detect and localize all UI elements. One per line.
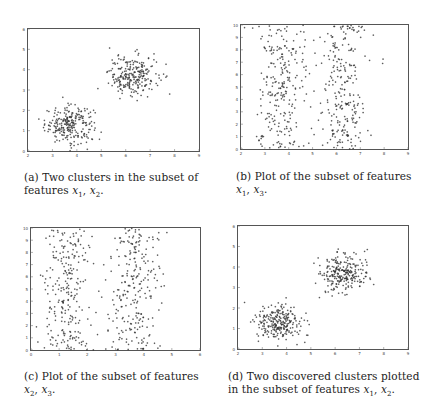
x-tick-label: 2	[237, 351, 240, 356]
y-tick-label: 2	[232, 306, 235, 311]
x-tick-label: 9	[198, 153, 201, 158]
y-tick-label: 2	[235, 122, 238, 127]
x-tick-label: 4	[287, 151, 290, 156]
x-tick-label: 6	[335, 151, 338, 156]
y-tick-label: 7	[25, 262, 28, 267]
x-tick-label: 3	[261, 351, 264, 356]
scatter-svg-b: 23456789012345678910	[241, 25, 408, 149]
y-tick-label: 5	[22, 47, 25, 52]
x-tick-label: 8	[382, 351, 385, 356]
scatter-plot-d: 234567890123456	[237, 225, 409, 350]
x-tick-label: 2	[86, 352, 89, 357]
x-tick-label: 3	[51, 153, 54, 158]
y-tick-label: 1	[25, 335, 28, 340]
scatter-svg-a: 234567890123456	[28, 29, 199, 151]
y-tick-label: 1	[22, 128, 25, 133]
caption-d-line2: in the subset of features x1, x2.	[228, 383, 433, 401]
y-tick-label: 1	[232, 326, 235, 331]
scatter-plot-c: 0123456012345678910	[30, 227, 201, 351]
caption-d-line1: (d) Two discovered clusters plotted	[228, 370, 433, 383]
scatter-svg-d: 234567890123456	[238, 226, 408, 349]
x-tick-label: 4	[285, 351, 288, 356]
caption-b: (b) Plot of the subset of features x1, x…	[236, 170, 431, 201]
y-tick-label: 6	[235, 72, 238, 77]
x-tick-label: 0	[30, 352, 33, 357]
caption-a: (a) Two clusters in the subset of featur…	[24, 171, 214, 202]
scatter-svg-c: 0123456012345678910	[31, 228, 200, 350]
y-tick-label: 5	[25, 287, 28, 292]
y-tick-label: 6	[232, 224, 235, 229]
y-tick-label: 5	[232, 244, 235, 249]
y-tick-label: 10	[23, 226, 29, 231]
scatter-plot-b: 23456789012345678910	[240, 24, 409, 150]
y-tick-label: 9	[235, 35, 238, 40]
y-tick-label: 7	[235, 60, 238, 65]
caption-c-line1: (c) Plot of the subset of features	[24, 370, 219, 383]
x-tick-label: 9	[407, 151, 410, 156]
x-tick-label: 3	[114, 352, 117, 357]
y-tick-label: 9	[25, 238, 28, 243]
y-tick-label: 3	[22, 88, 25, 93]
y-tick-label: 4	[232, 265, 235, 270]
y-tick-label: 1	[235, 134, 238, 139]
x-tick-label: 2	[240, 151, 243, 156]
y-tick-label: 4	[22, 67, 25, 72]
x-tick-label: 5	[311, 151, 314, 156]
y-tick-label: 8	[25, 250, 28, 255]
y-tick-label: 8	[235, 47, 238, 52]
y-tick-label: 2	[25, 323, 28, 328]
x-tick-label: 9	[407, 351, 410, 356]
caption-b-line2: x1, x3.	[236, 183, 431, 201]
x-tick-label: 5	[100, 153, 103, 158]
y-tick-label: 2	[22, 108, 25, 113]
x-tick-label: 7	[149, 153, 152, 158]
x-tick-label: 7	[358, 351, 361, 356]
caption-a-line2: features x1, x2.	[24, 184, 214, 202]
caption-c-line2: x2, x3.	[24, 383, 219, 401]
y-tick-label: 4	[235, 97, 238, 102]
x-tick-label: 1	[58, 352, 61, 357]
y-tick-label: 10	[233, 23, 239, 28]
caption-c: (c) Plot of the subset of features x2, x…	[24, 370, 219, 401]
y-tick-label: 6	[25, 274, 28, 279]
x-tick-label: 7	[359, 151, 362, 156]
caption-d: (d) Two discovered clusters plotted in t…	[228, 370, 433, 401]
y-tick-label: 0	[235, 147, 238, 152]
x-tick-label: 3	[264, 151, 267, 156]
caption-a-line1: (a) Two clusters in the subset of	[24, 171, 214, 184]
y-tick-label: 0	[22, 149, 25, 154]
x-tick-label: 8	[173, 153, 176, 158]
x-tick-label: 6	[334, 351, 337, 356]
x-tick-label: 4	[142, 352, 145, 357]
caption-b-line1: (b) Plot of the subset of features	[236, 170, 431, 183]
x-tick-label: 4	[76, 153, 79, 158]
x-tick-label: 8	[383, 151, 386, 156]
y-tick-label: 5	[235, 85, 238, 90]
x-tick-label: 6	[199, 352, 202, 357]
y-tick-label: 3	[232, 285, 235, 290]
x-tick-label: 5	[310, 351, 313, 356]
y-tick-label: 0	[25, 348, 28, 353]
y-tick-label: 3	[25, 311, 28, 316]
y-tick-label: 0	[232, 347, 235, 352]
scatter-plot-a: 234567890123456	[27, 28, 200, 152]
x-tick-label: 5	[171, 352, 174, 357]
y-tick-label: 4	[25, 299, 28, 304]
x-tick-label: 6	[124, 153, 127, 158]
x-tick-label: 2	[27, 153, 30, 158]
y-tick-label: 3	[235, 109, 238, 114]
y-tick-label: 6	[22, 27, 25, 32]
